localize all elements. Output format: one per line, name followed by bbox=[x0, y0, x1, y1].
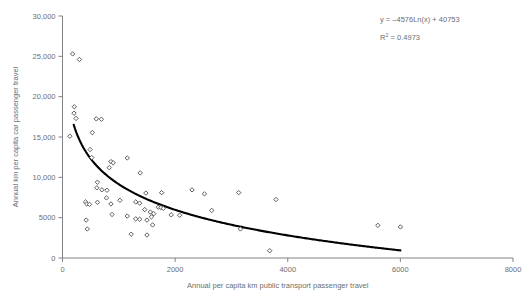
data-point bbox=[72, 111, 76, 115]
data-point bbox=[90, 130, 94, 134]
data-point bbox=[107, 165, 111, 169]
data-point bbox=[104, 196, 108, 200]
x-tick-label: 4000 bbox=[279, 265, 296, 274]
data-point bbox=[72, 105, 76, 109]
data-point bbox=[125, 214, 129, 218]
data-point bbox=[95, 200, 99, 204]
y-axis-title: Annual km per capita car passenger trave… bbox=[11, 66, 20, 207]
data-point bbox=[118, 198, 122, 202]
data-point bbox=[77, 57, 81, 61]
data-point bbox=[105, 188, 109, 192]
data-point bbox=[159, 190, 163, 194]
data-point bbox=[137, 217, 141, 221]
x-tick-label: 8000 bbox=[505, 265, 522, 274]
r-squared-annotation: R2 = 0.4973 bbox=[380, 32, 420, 42]
data-point bbox=[95, 180, 99, 184]
data-point bbox=[100, 188, 104, 192]
data-point bbox=[88, 147, 92, 151]
data-point bbox=[110, 212, 114, 216]
y-tick-label: 25,000 bbox=[33, 52, 56, 61]
trendline bbox=[74, 125, 401, 251]
y-tick-label: 20,000 bbox=[33, 92, 56, 101]
data-point bbox=[74, 116, 78, 120]
data-point bbox=[274, 197, 278, 201]
data-point bbox=[145, 233, 149, 237]
data-point bbox=[125, 156, 129, 160]
data-point bbox=[94, 117, 98, 121]
data-point bbox=[138, 171, 142, 175]
data-point bbox=[129, 232, 133, 236]
data-point bbox=[84, 218, 88, 222]
data-point bbox=[68, 134, 72, 138]
y-tick-label: 15,000 bbox=[33, 133, 56, 142]
data-point bbox=[70, 52, 74, 56]
y-tick-label: 5000 bbox=[39, 213, 56, 222]
data-point bbox=[177, 213, 181, 217]
data-point bbox=[99, 117, 103, 121]
scatter-chart: 0500010,00015,00020,00025,00030,00002000… bbox=[0, 0, 529, 296]
data-point bbox=[190, 188, 194, 192]
data-point bbox=[398, 225, 402, 229]
data-point bbox=[268, 249, 272, 253]
data-point bbox=[169, 213, 173, 217]
data-point bbox=[150, 223, 154, 227]
data-point bbox=[109, 202, 113, 206]
data-point bbox=[143, 207, 147, 211]
chart-canvas: 0500010,00015,00020,00025,00030,00002000… bbox=[0, 0, 529, 296]
data-point bbox=[85, 227, 89, 231]
data-point bbox=[95, 186, 99, 190]
data-point bbox=[202, 192, 206, 196]
equation-annotation: y = –4576Ln(x) + 40753 bbox=[380, 15, 460, 24]
x-tick-label: 2000 bbox=[167, 265, 184, 274]
x-axis-title: Annual per capita km public transport pa… bbox=[187, 281, 369, 290]
x-tick-label: 0 bbox=[60, 265, 64, 274]
data-point bbox=[376, 223, 380, 227]
data-point bbox=[210, 208, 214, 212]
data-point bbox=[144, 191, 148, 195]
y-tick-label: 0 bbox=[51, 254, 55, 263]
data-point bbox=[145, 218, 149, 222]
x-tick-label: 6000 bbox=[392, 265, 409, 274]
y-tick-label: 30,000 bbox=[33, 12, 56, 21]
data-point bbox=[237, 190, 241, 194]
y-tick-label: 10,000 bbox=[33, 173, 56, 182]
